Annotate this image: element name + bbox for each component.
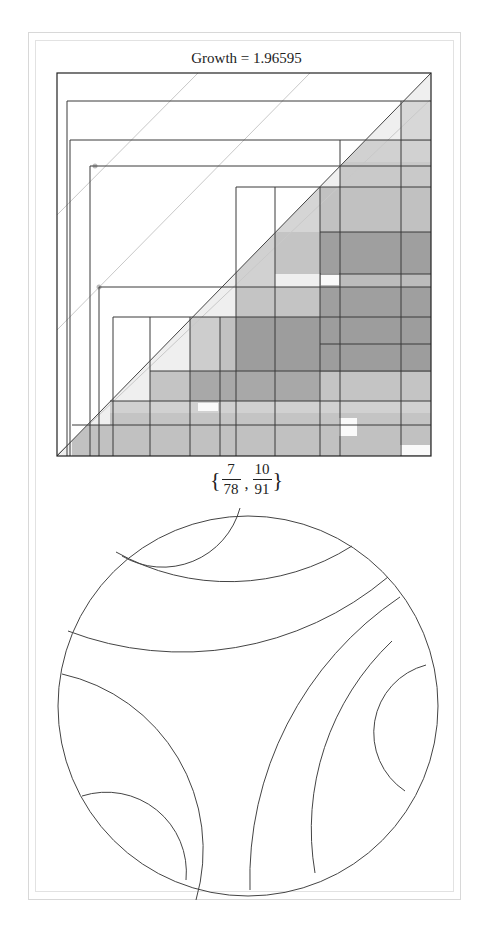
light-patch bbox=[198, 403, 218, 411]
fraction-bar bbox=[253, 479, 272, 480]
fraction-1-denominator: 78 bbox=[222, 482, 241, 497]
poincare-disk bbox=[58, 516, 438, 896]
geodesic-arc bbox=[68, 577, 388, 652]
fraction-1-numerator: 7 bbox=[225, 462, 237, 477]
geodesic-arc bbox=[374, 665, 426, 791]
shaded-block bbox=[340, 140, 431, 162]
fraction-bar bbox=[222, 479, 241, 480]
shaded-block bbox=[401, 101, 431, 141]
geodesic-arc bbox=[82, 792, 186, 880]
shaded-block bbox=[236, 317, 320, 371]
fraction-1: 7 78 bbox=[222, 462, 241, 497]
close-brace: } bbox=[273, 469, 284, 491]
geodesic-arc bbox=[250, 597, 400, 890]
light-patch bbox=[339, 418, 357, 436]
shaded-block bbox=[190, 317, 220, 371]
shaded-block bbox=[320, 232, 431, 372]
light-patch bbox=[321, 273, 339, 285]
geodesic-arc bbox=[62, 674, 203, 900]
fraction-2-denominator: 91 bbox=[253, 482, 272, 497]
fraction-2-numerator: 10 bbox=[253, 462, 272, 477]
shaded-block bbox=[320, 187, 431, 232]
shaded-block bbox=[110, 401, 431, 413]
fraction-2: 10 91 bbox=[253, 462, 272, 497]
shaded-blocks bbox=[72, 101, 431, 456]
shaded-block bbox=[190, 371, 320, 401]
geodesic-arc bbox=[116, 546, 352, 582]
guide-line bbox=[57, 73, 198, 215]
shaded-block bbox=[110, 413, 431, 425]
separator: , bbox=[245, 467, 249, 493]
light-patch bbox=[400, 445, 430, 455]
fraction-label: { 7 78 , 10 91 } bbox=[0, 462, 493, 497]
geodesic-arc bbox=[311, 641, 392, 873]
shaded-block bbox=[72, 425, 431, 456]
open-brace: { bbox=[210, 469, 221, 491]
geodesic-arc bbox=[122, 508, 240, 567]
